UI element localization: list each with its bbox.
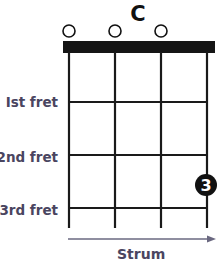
- open-string-marker: [63, 25, 75, 37]
- nut: [63, 41, 215, 53]
- finger-number: 3: [200, 176, 211, 195]
- fret-label-1: Ist fret: [6, 94, 58, 110]
- open-string-marker: [155, 25, 167, 37]
- strum-label: Strum: [117, 246, 165, 262]
- fret-label-2: 2nd fret: [0, 149, 58, 165]
- arrow-head-icon: [207, 236, 216, 243]
- fret-label-3: 3rd fret: [0, 202, 58, 218]
- chord-diagram: 3: [0, 0, 224, 267]
- open-string-marker: [109, 25, 121, 37]
